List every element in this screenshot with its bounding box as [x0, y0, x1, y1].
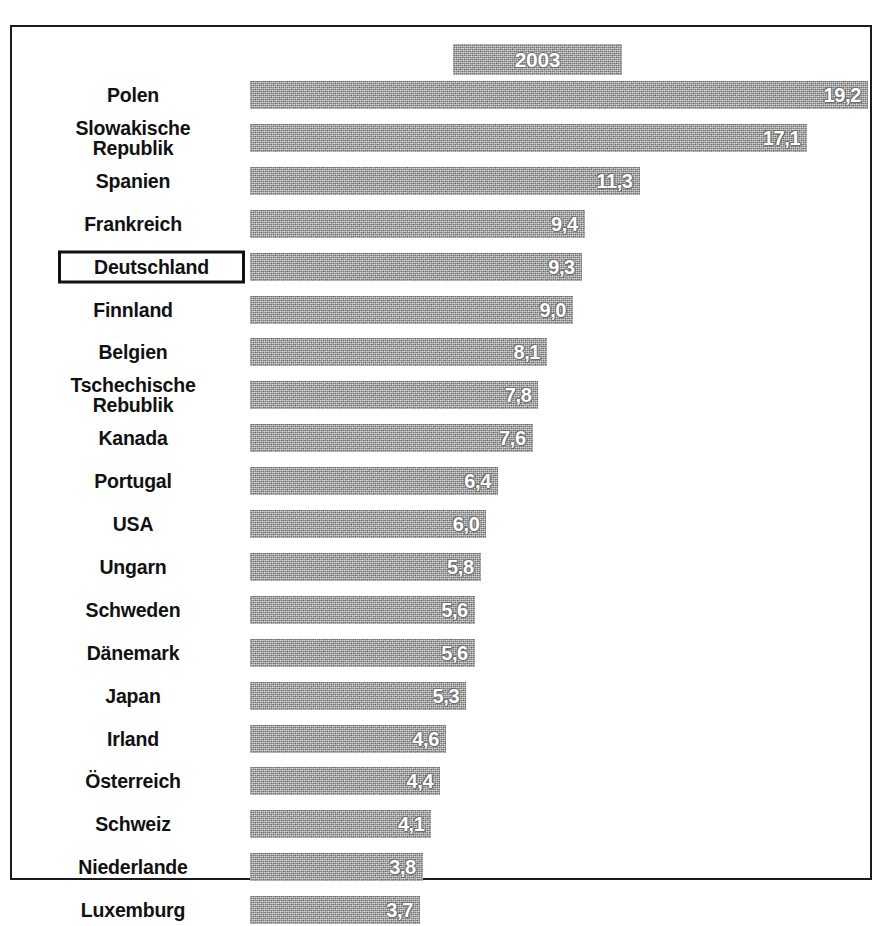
- bar-value-label: 9,0: [539, 298, 566, 321]
- category-label-line1: Luxemburg: [18, 900, 248, 920]
- bar: 5,6: [250, 639, 475, 667]
- category-label: Schweden: [18, 600, 248, 620]
- bar-value-label: 19,2: [824, 84, 861, 107]
- bar-value-label: 4,6: [412, 727, 439, 750]
- bar-value-label: 9,3: [548, 255, 575, 278]
- category-label: Deutschland: [58, 250, 245, 283]
- bar: 4,1: [250, 810, 431, 838]
- category-label-line1: Slowakische: [18, 118, 248, 138]
- category-label-line1: Belgien: [18, 342, 248, 362]
- category-label-line1: Spanien: [18, 171, 248, 191]
- category-label-line1: Frankreich: [18, 214, 248, 234]
- bar: 9,4: [250, 210, 585, 238]
- legend-label: 2003: [453, 44, 622, 75]
- bar-row: USA6,0: [12, 508, 870, 540]
- category-label: SlowakischeRepublik: [18, 118, 248, 158]
- bar-value-label: 4,1: [398, 813, 425, 836]
- category-label: Finnland: [18, 300, 248, 320]
- bar: 8,1: [250, 338, 547, 366]
- bar-value-label: 3,8: [389, 856, 416, 879]
- category-label-line1: Schweden: [18, 600, 248, 620]
- bar-row: Niederlande3,8: [12, 851, 870, 883]
- category-label: Niederlande: [18, 857, 248, 877]
- chart-legend: 2003: [453, 44, 622, 75]
- category-label: Dänemark: [18, 643, 248, 663]
- category-label-line1: USA: [18, 514, 248, 534]
- category-label: Österreich: [18, 771, 248, 791]
- category-label-line1: Deutschland: [61, 256, 242, 276]
- bar-row: Kanada7,6: [12, 422, 870, 454]
- bar: 5,8: [250, 553, 481, 581]
- bar: 7,8: [250, 381, 538, 409]
- bar-row: Frankreich9,4: [12, 208, 870, 240]
- bar-value-label: 8,1: [513, 341, 540, 364]
- bar-row: Finnland9,0: [12, 294, 870, 326]
- bar: 19,2: [250, 81, 868, 109]
- bar-row: Dänemark5,6: [12, 637, 870, 669]
- category-label-line2: Republik: [18, 138, 248, 158]
- chart-frame: 2003 Polen19,2SlowakischeRepublik17,1Spa…: [10, 25, 872, 880]
- category-label-line1: Ungarn: [18, 557, 248, 577]
- category-label: Spanien: [18, 171, 248, 191]
- bar-value-label: 4,4: [407, 770, 434, 793]
- category-label: Japan: [18, 686, 248, 706]
- category-label-line1: Irland: [18, 729, 248, 749]
- bar: 3,8: [250, 853, 423, 881]
- category-label-line1: Portugal: [18, 471, 248, 491]
- bar-value-label: 17,1: [763, 126, 800, 149]
- category-label: Polen: [18, 85, 248, 105]
- bar-row: Belgien8,1: [12, 336, 870, 368]
- category-label-line1: Kanada: [18, 428, 248, 448]
- bar-row: Spanien11,3: [12, 165, 870, 197]
- category-label-line1: Österreich: [18, 771, 248, 791]
- bar-row: Deutschland9,3: [12, 251, 870, 283]
- category-label-line1: Finnland: [18, 300, 248, 320]
- bar-value-label: 5,3: [433, 684, 460, 707]
- bar-row: Österreich4,4: [12, 765, 870, 797]
- bar: 9,0: [250, 296, 573, 324]
- bar: 5,3: [250, 682, 466, 710]
- category-label: Schweiz: [18, 814, 248, 834]
- category-label: USA: [18, 514, 248, 534]
- bar-row: Irland4,6: [12, 723, 870, 755]
- bar: 5,6: [250, 596, 475, 624]
- category-label: TschechischeRebublik: [18, 375, 248, 415]
- bar-row: Portugal6,4: [12, 465, 870, 497]
- bar: 7,6: [250, 424, 533, 452]
- bar-value-label: 7,6: [499, 427, 526, 450]
- bar-value-label: 5,6: [441, 641, 468, 664]
- category-label-line1: Tschechische: [18, 375, 248, 395]
- bar-value-label: 6,4: [464, 470, 491, 493]
- bar-row: Polen19,2: [12, 79, 870, 111]
- bar-value-label: 3,7: [386, 899, 413, 922]
- bar: 4,6: [250, 725, 446, 753]
- category-label-line1: Niederlande: [18, 857, 248, 877]
- category-label: Kanada: [18, 428, 248, 448]
- bar: 17,1: [250, 124, 807, 152]
- bar-row: Luxemburg3,7: [12, 894, 870, 926]
- bar-value-label: 5,8: [447, 555, 474, 578]
- bar-value-label: 9,4: [551, 212, 578, 235]
- bar: 9,3: [250, 253, 582, 281]
- bar-row: Japan5,3: [12, 680, 870, 712]
- bar-value-label: 7,8: [505, 384, 532, 407]
- bar: 11,3: [250, 167, 640, 195]
- category-label-line1: Dänemark: [18, 643, 248, 663]
- bar-row: Schweden5,6: [12, 594, 870, 626]
- category-label: Luxemburg: [18, 900, 248, 920]
- plot-area: 2003 Polen19,2SlowakischeRepublik17,1Spa…: [12, 27, 870, 878]
- category-label: Irland: [18, 729, 248, 749]
- bar-value-label: 5,6: [441, 598, 468, 621]
- category-label-line1: Japan: [18, 686, 248, 706]
- category-label-line1: Schweiz: [18, 814, 248, 834]
- category-label: Portugal: [18, 471, 248, 491]
- bar-row: Schweiz4,1: [12, 808, 870, 840]
- bar: 3,7: [250, 896, 420, 924]
- category-label-line1: Polen: [18, 85, 248, 105]
- category-label: Belgien: [18, 342, 248, 362]
- bar: 4,4: [250, 767, 440, 795]
- category-label: Ungarn: [18, 557, 248, 577]
- category-label: Frankreich: [18, 214, 248, 234]
- bar-row: TschechischeRebublik7,8: [12, 379, 870, 411]
